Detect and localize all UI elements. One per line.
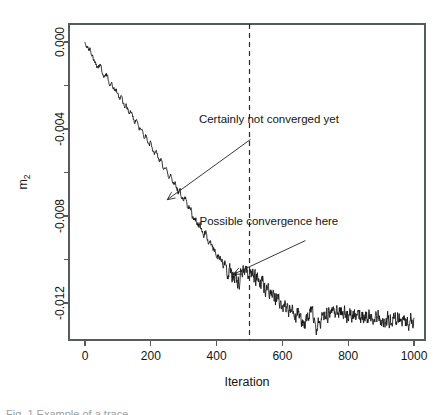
x-tick-label: 400	[207, 349, 227, 363]
y-tick-label: -0.008	[53, 199, 67, 233]
y-tick-label: -0.012	[53, 286, 67, 320]
y-tick-label: -0.004	[53, 112, 67, 146]
plot-frame	[69, 24, 425, 340]
figure-caption-partial: Fig. 1 Example of a trace	[6, 408, 128, 415]
figure-root: 0.000-0.004-0.008-0.012 0200400600800100…	[0, 0, 446, 415]
plot-frame-rect	[69, 24, 425, 340]
annotation-label-certainly-not-converged: Certainly not converged yet	[199, 113, 340, 125]
annotation-arrow-certainly-not-converged	[167, 139, 250, 199]
y-axis: 0.000-0.004-0.008-0.012	[53, 27, 69, 320]
annotation-label-possible-convergence: Possible convergence here	[200, 215, 339, 227]
x-tick-label: 800	[338, 349, 358, 363]
y-axis-title-text: m2	[16, 174, 32, 189]
y-tick-label: 0.000	[53, 27, 67, 57]
trace-plot-canvas: 0.000-0.004-0.008-0.012 0200400600800100…	[0, 0, 446, 415]
x-axis: 02004006008001000	[82, 340, 428, 363]
y-axis-title: m2	[16, 174, 32, 189]
x-tick-label: 600	[272, 349, 292, 363]
x-axis-title: Iteration	[224, 375, 269, 389]
y-axis-title-main: m	[16, 179, 30, 189]
annotation-arrow-possible-convergence	[233, 241, 305, 275]
x-tick-label: 0	[82, 349, 89, 363]
annotations: Certainly not converged yetPossible conv…	[167, 113, 339, 274]
x-tick-label: 200	[141, 349, 161, 363]
y-axis-title-subscript: 2	[22, 174, 32, 179]
x-tick-label: 1000	[401, 349, 428, 363]
